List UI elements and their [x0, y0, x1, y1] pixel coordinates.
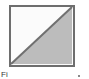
caption-strip: Fi [0, 71, 89, 79]
figure-container: Fi [0, 0, 89, 79]
caption-text: Fi [1, 71, 8, 79]
square-split-svg [9, 5, 75, 67]
caption-dot-mark [78, 75, 80, 77]
square-diagram [9, 5, 75, 67]
